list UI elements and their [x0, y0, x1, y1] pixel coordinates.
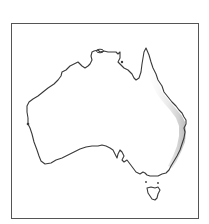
- flinders-island: [157, 182, 159, 184]
- kangaroo-island: [145, 181, 147, 183]
- tasmania: [147, 187, 160, 200]
- groote-eylandt: [121, 61, 123, 63]
- australia-mainland: [27, 48, 186, 176]
- shark-bay-mark: [27, 123, 30, 126]
- australia-map: [0, 0, 209, 224]
